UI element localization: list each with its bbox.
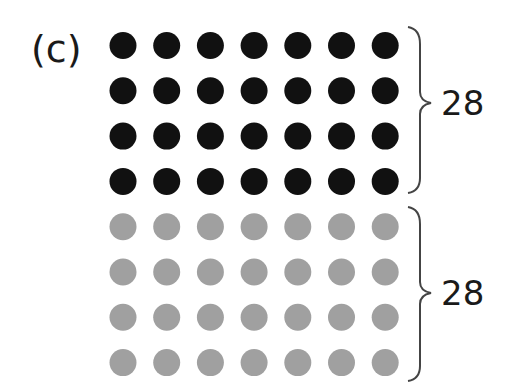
- bottom-dot: [197, 304, 224, 331]
- bottom-dot: [110, 349, 137, 376]
- top-dot: [153, 32, 180, 59]
- bottom-dot: [110, 259, 137, 286]
- bottom-dot: [153, 304, 180, 331]
- bottom-dot: [153, 259, 180, 286]
- top-dot: [110, 168, 137, 195]
- bottom-dot: [197, 213, 224, 240]
- top-dot: [241, 77, 268, 104]
- top-brace-icon: [408, 27, 431, 193]
- top-dot: [241, 32, 268, 59]
- top-dot: [197, 32, 224, 59]
- top-dot: [241, 168, 268, 195]
- bottom-dot: [328, 349, 355, 376]
- top-dot: [110, 32, 137, 59]
- top-dot: [284, 168, 311, 195]
- top-group-count: 28: [441, 86, 484, 120]
- bottom-dot: [241, 304, 268, 331]
- top-dot: [328, 32, 355, 59]
- bottom-dot: [328, 304, 355, 331]
- bottom-dot: [110, 304, 137, 331]
- bottom-dot: [372, 304, 399, 331]
- bottom-dot: [372, 213, 399, 240]
- top-dot: [197, 168, 224, 195]
- bottom-dot: [197, 349, 224, 376]
- bottom-dot: [284, 259, 311, 286]
- top-dot: [372, 77, 399, 104]
- bottom-dot: [328, 259, 355, 286]
- top-dot: [372, 168, 399, 195]
- top-dot: [153, 123, 180, 150]
- top-dot: [153, 77, 180, 104]
- top-dot: [284, 32, 311, 59]
- top-dot: [372, 123, 399, 150]
- bottom-dot: [284, 349, 311, 376]
- bottom-dot: [284, 213, 311, 240]
- top-dot: [328, 77, 355, 104]
- bottom-dot: [328, 213, 355, 240]
- top-dot: [328, 168, 355, 195]
- top-dot: [197, 77, 224, 104]
- bottom-dot: [284, 304, 311, 331]
- top-dot: [110, 77, 137, 104]
- bottom-dot: [153, 213, 180, 240]
- top-dot: [153, 168, 180, 195]
- bottom-dot: [197, 259, 224, 286]
- bottom-dot: [372, 259, 399, 286]
- bottom-group-count: 28: [441, 276, 484, 310]
- bottom-dot: [241, 259, 268, 286]
- top-dot: [328, 123, 355, 150]
- top-dot: [284, 77, 311, 104]
- bottom-dot: [153, 349, 180, 376]
- bottom-dot: [241, 349, 268, 376]
- bottom-dot: [241, 213, 268, 240]
- top-dot: [372, 32, 399, 59]
- dot-array-figure: (c) 28 28: [0, 0, 509, 384]
- top-dot: [197, 123, 224, 150]
- top-dot: [241, 123, 268, 150]
- bottom-brace-icon: [408, 207, 431, 381]
- top-dot: [110, 123, 137, 150]
- bottom-dot: [372, 349, 399, 376]
- top-dot: [284, 123, 311, 150]
- bottom-dot: [110, 213, 137, 240]
- dot-grid: [0, 0, 509, 384]
